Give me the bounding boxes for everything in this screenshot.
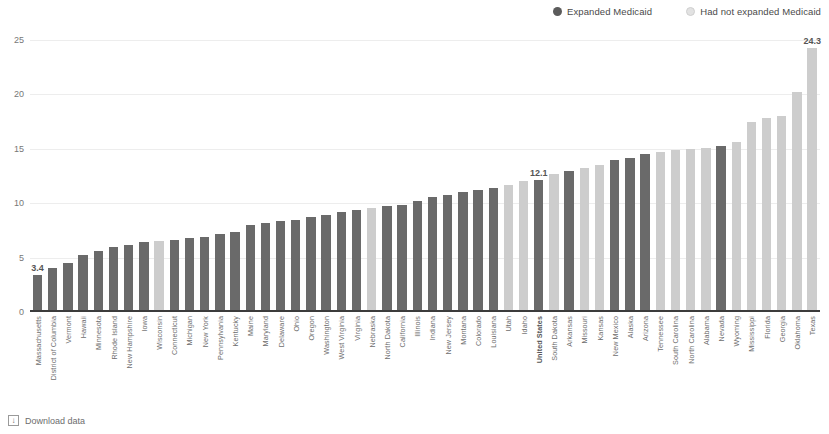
bar[interactable] — [154, 241, 163, 312]
x-label-slot: Louisiana — [486, 314, 501, 400]
bar[interactable] — [352, 210, 361, 312]
x-axis-tick-label: Indiana — [428, 316, 437, 340]
bar[interactable] — [732, 142, 741, 312]
bar[interactable] — [94, 251, 103, 312]
bar[interactable] — [580, 168, 589, 312]
bar[interactable] — [170, 240, 179, 312]
bar[interactable] — [747, 122, 756, 312]
gridline: 0 — [30, 312, 820, 313]
bar[interactable] — [48, 268, 57, 312]
bar[interactable] — [595, 165, 604, 312]
bar[interactable] — [261, 223, 270, 312]
x-axis-tick-label: Georgia — [777, 316, 786, 342]
legend-label-expanded: Expanded Medicaid — [567, 6, 652, 17]
x-axis-tick-label: Kentucky — [231, 316, 240, 346]
bar-slot — [197, 40, 212, 312]
bar[interactable] — [397, 205, 406, 312]
bar-slot — [516, 40, 531, 312]
x-label-slot: Illinois — [410, 314, 425, 400]
bar[interactable] — [610, 160, 619, 312]
bar-slot — [774, 40, 789, 312]
bar[interactable] — [276, 221, 285, 312]
x-label-slot: Minnesota — [91, 314, 106, 400]
x-label-slot: Kentucky — [227, 314, 242, 400]
bar[interactable] — [109, 247, 118, 312]
bar[interactable] — [686, 149, 695, 312]
bar[interactable] — [185, 238, 194, 312]
x-label-slot: Oregon — [303, 314, 318, 400]
bar[interactable] — [504, 185, 513, 312]
bar[interactable] — [792, 92, 801, 312]
bar[interactable] — [78, 255, 87, 312]
bar[interactable] — [63, 263, 72, 312]
bar-value-label: 3.4 — [31, 263, 44, 273]
bar[interactable] — [337, 212, 346, 312]
bar[interactable] — [230, 232, 239, 313]
x-axis-tick-label: Florida — [762, 316, 771, 339]
bar[interactable] — [200, 237, 209, 312]
bar[interactable] — [413, 201, 422, 312]
bar-slot — [76, 40, 91, 312]
bar[interactable] — [428, 197, 437, 312]
x-label-slot: Wisconsin — [152, 314, 167, 400]
x-axis-line — [30, 310, 820, 312]
bar[interactable] — [124, 245, 133, 312]
bar[interactable]: 3.4 — [33, 275, 42, 312]
bar[interactable] — [473, 190, 482, 312]
bar[interactable] — [458, 192, 467, 312]
x-label-slot: Mississippi — [744, 314, 759, 400]
bar-slot — [622, 40, 637, 312]
plot-area: 2520151050 3.412.124.3 — [30, 40, 820, 312]
bar[interactable]: 12.1 — [534, 180, 543, 312]
x-label-slot: Vermont — [60, 314, 75, 400]
bar[interactable] — [549, 174, 558, 312]
bar[interactable]: 24.3 — [807, 48, 816, 312]
bar[interactable] — [489, 188, 498, 312]
download-data-label[interactable]: Download data — [25, 416, 85, 426]
bar[interactable] — [382, 206, 391, 312]
x-axis-tick-label: Iowa — [139, 316, 148, 332]
x-axis-tick-label: North Carolina — [686, 316, 695, 364]
bar[interactable] — [443, 195, 452, 313]
download-data-link[interactable]: ↓ Download data — [8, 415, 85, 426]
y-axis-tick-label: 25 — [14, 35, 24, 45]
x-label-slot: Alaska — [622, 314, 637, 400]
bar[interactable] — [671, 150, 680, 312]
x-label-slot: Indiana — [425, 314, 440, 400]
bar[interactable] — [640, 154, 649, 312]
chart-legend: Expanded Medicaid Had not expanded Medic… — [553, 6, 821, 17]
bar[interactable] — [321, 215, 330, 312]
bar[interactable] — [367, 208, 376, 312]
bar[interactable] — [625, 158, 634, 312]
x-label-slot: Florida — [759, 314, 774, 400]
y-axis-tick-label: 15 — [14, 144, 24, 154]
legend-dot-dark-icon — [553, 7, 562, 16]
bar[interactable] — [701, 148, 710, 312]
bar-slot — [668, 40, 683, 312]
bar[interactable] — [564, 171, 573, 312]
bar[interactable] — [519, 181, 528, 312]
bar[interactable] — [215, 234, 224, 312]
bar[interactable] — [656, 152, 665, 312]
bar[interactable] — [716, 146, 725, 312]
x-axis-tick-label: Vermont — [63, 316, 72, 343]
bar[interactable] — [246, 225, 255, 312]
x-axis-tick-label: United States — [534, 316, 543, 363]
bar[interactable] — [762, 118, 771, 312]
legend-item-expanded[interactable]: Expanded Medicaid — [553, 6, 652, 17]
bar-slot — [470, 40, 485, 312]
x-axis-tick-label: Washington — [322, 316, 331, 355]
x-axis-tick-label: California — [398, 316, 407, 347]
bar-slot — [258, 40, 273, 312]
bar[interactable] — [777, 116, 786, 312]
x-label-slot: Ohio — [288, 314, 303, 400]
bar[interactable] — [139, 242, 148, 312]
bar[interactable] — [291, 220, 300, 312]
x-axis-tick-label: New Hampshire — [124, 316, 133, 368]
x-axis-tick-label: Rhode Island — [109, 316, 118, 360]
bar[interactable] — [306, 217, 315, 312]
legend-item-not-expanded[interactable]: Had not expanded Medicaid — [686, 6, 821, 17]
legend-dot-light-icon — [686, 7, 695, 16]
bar-slot — [546, 40, 561, 312]
x-label-slot: Oklahoma — [789, 314, 804, 400]
